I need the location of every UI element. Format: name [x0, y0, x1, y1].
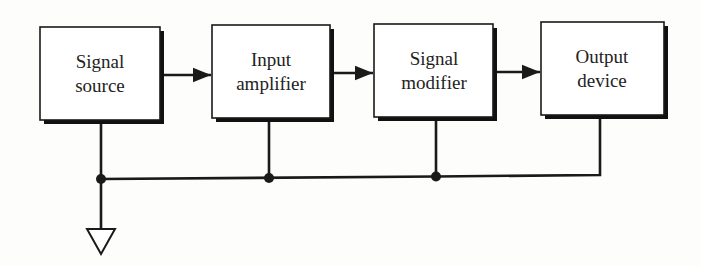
junction-dot [264, 173, 274, 183]
common-ground-bus [101, 119, 600, 179]
block-frame [541, 22, 664, 115]
block-frame [212, 25, 330, 118]
block-label-line1: Signal [410, 48, 459, 69]
block-label-line2: device [577, 70, 627, 91]
block-label-line1: Input [251, 49, 292, 70]
block-input-amplifier: Input amplifier [212, 25, 334, 122]
block-label-line1: Signal [76, 51, 125, 72]
block-frame [374, 24, 493, 117]
block-signal-modifier: Signal modifier [374, 24, 497, 121]
block-label-line1: Output [576, 46, 630, 67]
block-label-line2: source [75, 75, 125, 96]
block-signal-source: Signal source [40, 27, 164, 124]
junction-dot [96, 174, 106, 184]
signal-chain-block-diagram: Signal source Input amplifier Signal mod… [0, 0, 701, 266]
block-output-device: Output device [541, 22, 668, 119]
block-label-line2: modifier [401, 72, 467, 93]
block-frame [40, 27, 160, 120]
ground-icon [87, 229, 115, 254]
block-label-line2: amplifier [236, 73, 306, 94]
junction-dot [431, 172, 441, 182]
